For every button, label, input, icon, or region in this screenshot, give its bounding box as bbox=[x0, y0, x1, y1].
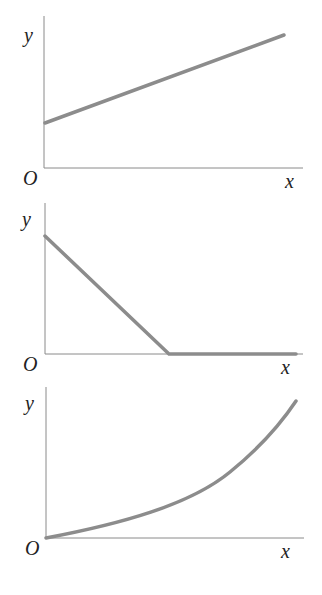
y-axis-label: y bbox=[22, 24, 33, 47]
origin-label: O bbox=[25, 537, 39, 559]
graph-1: y O x bbox=[22, 16, 303, 192]
origin-label: O bbox=[23, 353, 37, 375]
y-axis-label: y bbox=[23, 392, 34, 415]
y-axis-label: y bbox=[20, 208, 31, 231]
exponential-curve bbox=[46, 401, 296, 538]
piecewise-line bbox=[45, 236, 296, 354]
increasing-line bbox=[45, 35, 284, 123]
origin-label: O bbox=[23, 167, 37, 189]
graphs-figure: y O x y O x y O x bbox=[0, 0, 322, 595]
graph-3: y O x bbox=[23, 387, 304, 562]
x-axis-label: x bbox=[280, 356, 290, 378]
x-axis-label: x bbox=[284, 170, 294, 192]
graph-2: y O x bbox=[20, 203, 303, 378]
x-axis-label: x bbox=[280, 540, 290, 562]
